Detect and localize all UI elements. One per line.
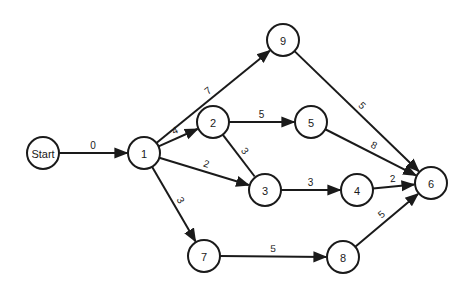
edges-layer: 0742353328555 bbox=[59, 51, 419, 257]
edge-weight-label: 3 bbox=[175, 195, 188, 206]
edge-1-to-3: 2 bbox=[159, 158, 248, 185]
edge-weight-label: 3 bbox=[308, 177, 314, 188]
node-label: 7 bbox=[201, 251, 207, 263]
edge-weight-label: 5 bbox=[270, 243, 276, 254]
edge-4-to-6: 2 bbox=[373, 173, 414, 189]
edge-7-to-8: 5 bbox=[220, 243, 326, 257]
node-1: 1 bbox=[128, 137, 160, 169]
edge-weight-label: 3 bbox=[239, 145, 251, 156]
edge-1-to-7: 3 bbox=[152, 167, 195, 241]
node-label: 8 bbox=[340, 252, 346, 264]
edge-weight-label: 8 bbox=[369, 139, 379, 152]
network-diagram: 0742353328555 Start123456789 bbox=[0, 0, 467, 287]
node-6: 6 bbox=[415, 167, 447, 199]
node-label: 4 bbox=[354, 185, 360, 197]
node-9: 9 bbox=[267, 24, 299, 56]
edge-line bbox=[325, 129, 416, 175]
edge-3-to-4: 3 bbox=[281, 177, 340, 191]
edge-start-to-1: 0 bbox=[59, 140, 127, 154]
node-3: 3 bbox=[249, 174, 281, 206]
edge-weight-label: 2 bbox=[389, 173, 396, 185]
edge-5-to-6: 8 bbox=[325, 129, 416, 175]
node-4: 4 bbox=[341, 174, 373, 206]
node-label: 9 bbox=[280, 35, 286, 47]
node-label: 2 bbox=[210, 117, 216, 129]
edge-weight-label: 0 bbox=[90, 140, 96, 151]
node-label: 1 bbox=[141, 148, 147, 160]
edge-weight-label: 2 bbox=[202, 158, 211, 170]
edge-weight-label: 5 bbox=[376, 208, 388, 220]
node-8: 8 bbox=[327, 241, 359, 273]
node-start: Start bbox=[27, 137, 59, 169]
edge-weight-label: 5 bbox=[259, 109, 265, 120]
node-label: Start bbox=[31, 148, 54, 160]
node-5: 5 bbox=[295, 106, 327, 138]
node-7: 7 bbox=[188, 240, 220, 272]
edge-weight-label: 7 bbox=[202, 84, 214, 96]
edge-line bbox=[373, 185, 414, 189]
edge-line bbox=[223, 135, 255, 177]
node-label: 3 bbox=[262, 185, 268, 197]
edge-2-to-5: 5 bbox=[229, 109, 294, 123]
edge-line bbox=[220, 256, 326, 257]
edge-weight-label: 5 bbox=[356, 100, 368, 112]
node-label: 5 bbox=[308, 117, 314, 129]
edge-2-to-3: 3 bbox=[223, 135, 255, 177]
edge-line bbox=[152, 167, 195, 241]
node-label: 6 bbox=[428, 178, 434, 190]
node-2: 2 bbox=[197, 106, 229, 138]
